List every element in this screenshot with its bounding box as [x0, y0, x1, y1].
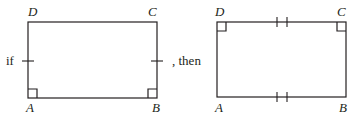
then-label: , then [172, 53, 201, 68]
right-rectangle [217, 22, 346, 97]
vertex-label-d-right: D [214, 4, 225, 19]
vertex-label-a-left: A [25, 100, 34, 115]
vertex-label-b-right: B [339, 100, 347, 115]
right-angle-mark-b [148, 89, 157, 98]
vertex-label-d-left: D [27, 4, 38, 19]
left-figure: if D C A B [6, 4, 163, 115]
vertex-label-a-right: A [214, 100, 223, 115]
rectangle-theorem-diagram: if D C A B , then D C A B [0, 0, 352, 120]
vertex-label-b-left: B [152, 100, 160, 115]
right-angle-mark-c [337, 22, 346, 31]
vertex-label-c-left: C [148, 4, 157, 19]
right-figure: D C A B [214, 4, 347, 115]
left-rectangle [28, 22, 157, 98]
vertex-label-c-right: C [337, 4, 346, 19]
right-angle-mark-a [28, 89, 37, 98]
if-label: if [6, 53, 15, 68]
right-angle-mark-d [217, 22, 226, 31]
